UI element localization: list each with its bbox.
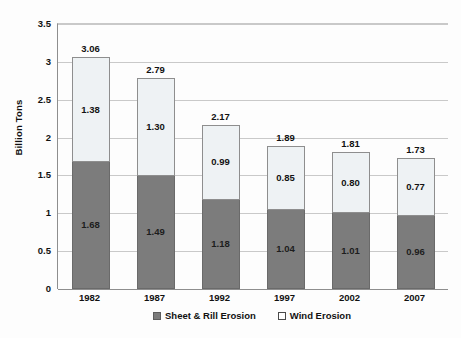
bar-segment-value-label: 1.38 [81,105,100,115]
gridline [58,138,448,139]
x-tick-label: 2002 [320,292,380,303]
bar-segment-value-label: 0.99 [211,157,230,167]
bar-segment-wind-erosion[interactable]: 0.77 [397,158,435,216]
y-tick-label: 1.5 [5,169,51,180]
bar-group[interactable]: 1.491.302.79 [137,24,175,289]
bar-total-label: 2.17 [196,111,246,122]
bar-total-label: 3.06 [66,43,116,54]
bar-group[interactable]: 1.010.801.81 [332,24,370,289]
bar-group[interactable]: 1.040.851.89 [267,24,305,289]
stacked-bar-chart: Billion Tons 00.511.522.533.5 1.681.383.… [0,0,461,338]
y-tick-label: 3.5 [5,18,51,29]
bar-segment-wind-erosion[interactable]: 0.80 [332,152,370,213]
bar-segment-sheet-rill-erosion[interactable]: 1.68 [72,162,110,289]
bar-segment-wind-erosion[interactable]: 1.30 [137,78,175,176]
plot-area: 1.681.383.061.491.302.791.180.992.171.04… [57,23,448,289]
y-tick-label: 1 [5,207,51,218]
bar-segment-value-label: 1.01 [341,246,360,256]
bar-segment-value-label: 1.68 [81,220,100,230]
bar-segment-sheet-rill-erosion[interactable]: 1.01 [332,213,370,289]
bar-segment-value-label: 0.96 [406,247,425,257]
bar-segment-value-label: 0.77 [406,182,425,192]
x-tick-label: 1992 [190,292,250,303]
bar-segment-sheet-rill-erosion[interactable]: 1.18 [202,200,240,289]
bar-segment-value-label: 1.18 [211,239,230,249]
y-tick-label: 2 [5,131,51,142]
gridline [58,289,448,290]
bar-segment-wind-erosion[interactable]: 0.85 [267,146,305,210]
bar-segment-value-label: 1.49 [146,227,165,237]
legend-swatch-icon [153,312,161,320]
bar-segment-value-label: 0.85 [276,173,295,183]
y-tick-label: 0.5 [5,245,51,256]
y-tick-label: 2.5 [5,93,51,104]
x-tick-label: 1997 [255,292,315,303]
bar-segment-wind-erosion[interactable]: 0.99 [202,125,240,200]
bar-total-label: 2.79 [131,64,181,75]
gridline [58,62,448,63]
x-tick-label: 1982 [60,292,120,303]
bar-segment-sheet-rill-erosion[interactable]: 1.49 [137,176,175,289]
gridline [58,251,448,252]
y-tick-label: 0 [5,283,51,294]
bar-segment-value-label: 1.30 [146,122,165,132]
bar-segment-sheet-rill-erosion[interactable]: 0.96 [397,216,435,289]
gridline [58,24,448,25]
x-axis-tick-labels: 198219871992199720022007 [57,292,447,308]
bar-total-label: 1.81 [326,138,376,149]
gridline [58,213,448,214]
bar-group[interactable]: 1.180.992.17 [202,24,240,289]
legend-label: Wind Erosion [290,310,351,321]
bar-segment-wind-erosion[interactable]: 1.38 [72,57,110,161]
gridline [58,175,448,176]
bar-total-label: 1.73 [391,144,441,155]
bar-segment-sheet-rill-erosion[interactable]: 1.04 [267,210,305,289]
bar-group[interactable]: 0.960.771.73 [397,24,435,289]
legend-swatch-icon [278,312,286,320]
y-tick-label: 3 [5,55,51,66]
bar-segment-value-label: 0.80 [341,178,360,188]
x-tick-label: 1987 [125,292,185,303]
legend-label: Sheet & Rill Erosion [165,310,256,321]
x-tick-label: 2007 [385,292,445,303]
legend-item[interactable]: Sheet & Rill Erosion [153,310,256,321]
gridline [58,100,448,101]
bar-total-label: 1.89 [261,132,311,143]
bar-segment-value-label: 1.04 [276,244,295,254]
legend-item[interactable]: Wind Erosion [278,310,351,321]
y-axis-tick-labels: 00.511.522.533.5 [0,23,51,288]
bar-group[interactable]: 1.681.383.06 [72,24,110,289]
chart-legend: Sheet & Rill ErosionWind Erosion [57,310,447,321]
